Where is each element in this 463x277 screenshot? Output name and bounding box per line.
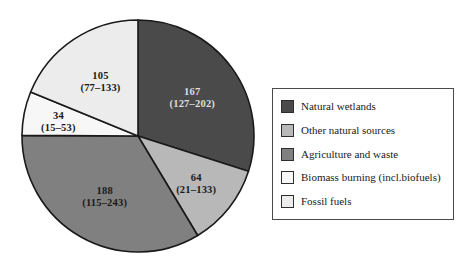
legend-item[interactable]: Natural wetlands bbox=[281, 96, 447, 117]
legend-item-label: Agriculture and waste bbox=[301, 149, 398, 160]
slice-value-label: 105 bbox=[92, 70, 108, 81]
slice-range-label: (115–243) bbox=[82, 197, 127, 209]
legend-item-label: Biomass burning (incl.biofuels) bbox=[301, 172, 441, 183]
legend-item[interactable]: Fossil fuels bbox=[281, 191, 447, 212]
slice-value-label: 188 bbox=[97, 185, 113, 196]
legend-item-label: Natural wetlands bbox=[301, 101, 376, 112]
legend-swatch-icon bbox=[281, 171, 294, 184]
legend-swatch-icon bbox=[281, 148, 294, 161]
legend-swatch-icon bbox=[281, 100, 294, 113]
slice-range-label: (15–53) bbox=[41, 122, 76, 134]
legend-swatch-icon bbox=[281, 124, 294, 137]
legend-swatch-icon bbox=[281, 195, 294, 208]
pie-svg: 167(127–202)64(21–133)188(115–243)34(15–… bbox=[20, 18, 256, 254]
pie-chart-plot-area: 167(127–202)64(21–133)188(115–243)34(15–… bbox=[20, 18, 256, 254]
slice-range-label: (127–202) bbox=[170, 98, 216, 110]
slice-value-label: 64 bbox=[191, 172, 202, 183]
legend-item-label: Other natural sources bbox=[301, 125, 395, 136]
pie-slices-group bbox=[22, 20, 254, 252]
legend-item[interactable]: Agriculture and waste bbox=[281, 144, 447, 165]
slice-value-label: 167 bbox=[184, 86, 200, 97]
slice-value-label: 34 bbox=[53, 110, 64, 121]
chart-legend: Natural wetlands Other natural sources A… bbox=[272, 88, 454, 220]
slice-range-label: (77–133) bbox=[80, 82, 120, 94]
pie-chart-figure: 167(127–202)64(21–133)188(115–243)34(15–… bbox=[0, 0, 463, 277]
legend-item-label: Fossil fuels bbox=[301, 196, 351, 207]
legend-item[interactable]: Other natural sources bbox=[281, 120, 447, 141]
legend-item[interactable]: Biomass burning (incl.biofuels) bbox=[281, 167, 447, 188]
slice-range-label: (21–133) bbox=[176, 184, 216, 196]
